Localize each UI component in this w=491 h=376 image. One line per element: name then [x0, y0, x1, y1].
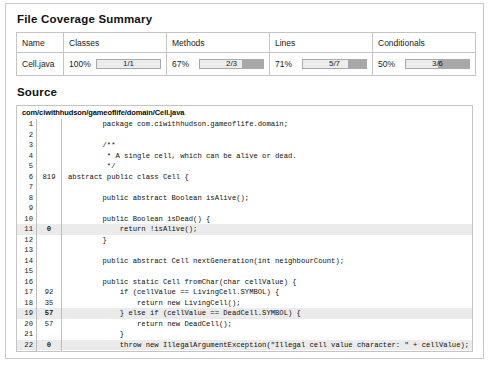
- code-line: 1957 } else if (cellValue == DeadCell.SY…: [17, 308, 472, 319]
- source-heading: Source: [17, 86, 473, 98]
- coverage-bar-label: 3/6: [406, 60, 469, 68]
- line-number: 13: [17, 245, 37, 256]
- code-line: 21 }: [17, 329, 472, 340]
- code-line: 1 package com.ciwithhudson.gameoflife.do…: [17, 119, 472, 130]
- line-source-text: [62, 203, 472, 214]
- line-hit-count: 57: [37, 308, 62, 319]
- line-hit-count: [37, 151, 62, 162]
- line-source-text: public static Cell fromChar(char cellVal…: [62, 277, 472, 288]
- line-source-text: throw new IllegalArgumentException("Ille…: [62, 340, 472, 351]
- line-source-text: */: [62, 161, 472, 172]
- code-line: 15: [17, 266, 472, 277]
- line-hit-count: [37, 203, 62, 214]
- coverage-bar-methods: 2/3: [199, 59, 264, 69]
- line-number: 12: [17, 235, 37, 246]
- line-source-text: return new LivingCell();: [62, 298, 472, 309]
- line-hit-count: [37, 266, 62, 277]
- code-line: 1792 if (cellValue == LivingCell.SYMBOL)…: [17, 287, 472, 298]
- line-source-text: return new DeadCell();: [62, 319, 472, 330]
- column-header-name: Name: [17, 33, 64, 53]
- code-line: 7: [17, 182, 472, 193]
- source-file-path: com/ciwithhudson/gameoflife/domain/Cell.…: [17, 106, 472, 119]
- file-coverage-summary-table: Name Classes Methods Lines Conditionals …: [16, 32, 476, 76]
- line-number: 10: [17, 214, 37, 225]
- source-code-listing: 1 package com.ciwithhudson.gameoflife.do…: [17, 119, 472, 352]
- code-line: 5 */: [17, 161, 472, 172]
- code-line: 220 throw new IllegalArgumentException("…: [17, 340, 472, 351]
- column-header-methods: Methods: [167, 33, 270, 53]
- metric-conditionals: 50% 3/6: [378, 59, 470, 69]
- code-line: 23 }: [17, 350, 472, 352]
- line-number: 20: [17, 319, 37, 330]
- line-number: 17: [17, 287, 37, 298]
- line-source-text: }: [62, 350, 472, 352]
- line-source-text: /**: [62, 140, 472, 151]
- line-hit-count: 0: [37, 224, 62, 235]
- line-hit-count: [37, 119, 62, 130]
- code-line: 16 public static Cell fromChar(char cell…: [17, 277, 472, 288]
- code-line: 12 }: [17, 235, 472, 246]
- code-line: 2: [17, 130, 472, 141]
- line-number: 19: [17, 308, 37, 319]
- line-source-text: } else if (cellValue == DeadCell.SYMBOL)…: [62, 308, 472, 319]
- line-hit-count: [37, 182, 62, 193]
- code-line: 110 return !isAlive();: [17, 224, 472, 235]
- line-number: 4: [17, 151, 37, 162]
- line-number: 9: [17, 203, 37, 214]
- line-source-text: }: [62, 329, 472, 340]
- metric-percent: 100%: [69, 59, 91, 69]
- line-number: 18: [17, 298, 37, 309]
- coverage-report-panel: File Coverage Summary Name Classes Metho…: [5, 3, 484, 359]
- code-line: 9: [17, 203, 472, 214]
- table-header-row: Name Classes Methods Lines Conditionals: [17, 33, 476, 53]
- line-number: 14: [17, 256, 37, 267]
- line-source-text: [62, 130, 472, 141]
- code-line: 13: [17, 245, 472, 256]
- line-source-text: package com.ciwithhudson.gameoflife.doma…: [62, 119, 472, 130]
- table-row: Cell.java 100% 1/1 67%: [17, 53, 476, 76]
- line-source-text: public abstract Boolean isAlive();: [62, 193, 472, 204]
- cell-methods: 67% 2/3: [167, 53, 270, 76]
- metric-classes: 100% 1/1: [69, 59, 161, 69]
- line-hit-count: [37, 329, 62, 340]
- code-line: 8 public abstract Boolean isAlive();: [17, 193, 472, 204]
- line-number: 22: [17, 340, 37, 351]
- line-hit-count: [37, 130, 62, 141]
- line-source-text: [62, 245, 472, 256]
- code-line: 14 public abstract Cell nextGeneration(i…: [17, 256, 472, 267]
- cell-conditionals: 50% 3/6: [373, 53, 476, 76]
- line-hit-count: [37, 193, 62, 204]
- cell-classes: 100% 1/1: [64, 53, 167, 76]
- line-source-text: return !isAlive();: [62, 224, 472, 235]
- code-line: 10 public Boolean isDead() {: [17, 214, 472, 225]
- source-code-panel: com/ciwithhudson/gameoflife/domain/Cell.…: [16, 105, 473, 352]
- line-number: 16: [17, 277, 37, 288]
- line-number: 3: [17, 140, 37, 151]
- line-hit-count: [37, 161, 62, 172]
- line-source-text: if (cellValue == LivingCell.SYMBOL) {: [62, 287, 472, 298]
- line-source-text: [62, 266, 472, 277]
- code-line: 4 * A single cell, which can be alive or…: [17, 151, 472, 162]
- cell-file-name: Cell.java: [17, 53, 64, 76]
- coverage-bar-label: 2/3: [200, 60, 263, 68]
- line-number: 11: [17, 224, 37, 235]
- line-source-text: }: [62, 235, 472, 246]
- line-source-text: [62, 182, 472, 193]
- line-hit-count: [37, 277, 62, 288]
- code-line: 6819abstract public class Cell {: [17, 172, 472, 183]
- column-header-lines: Lines: [270, 33, 373, 53]
- page-title: File Coverage Summary: [17, 13, 473, 25]
- line-number: 5: [17, 161, 37, 172]
- line-hit-count: 35: [37, 298, 62, 309]
- line-number: 21: [17, 329, 37, 340]
- line-hit-count: [37, 245, 62, 256]
- line-source-text: public Boolean isDead() {: [62, 214, 472, 225]
- code-line: 1835 return new LivingCell();: [17, 298, 472, 309]
- line-number: 6: [17, 172, 37, 183]
- code-line: 2057 return new DeadCell();: [17, 319, 472, 330]
- metric-percent: 71%: [275, 59, 297, 69]
- coverage-bar-classes: 1/1: [96, 59, 161, 69]
- line-hit-count: [37, 140, 62, 151]
- coverage-bar-conditionals: 3/6: [405, 59, 470, 69]
- coverage-bar-label: 1/1: [97, 60, 160, 68]
